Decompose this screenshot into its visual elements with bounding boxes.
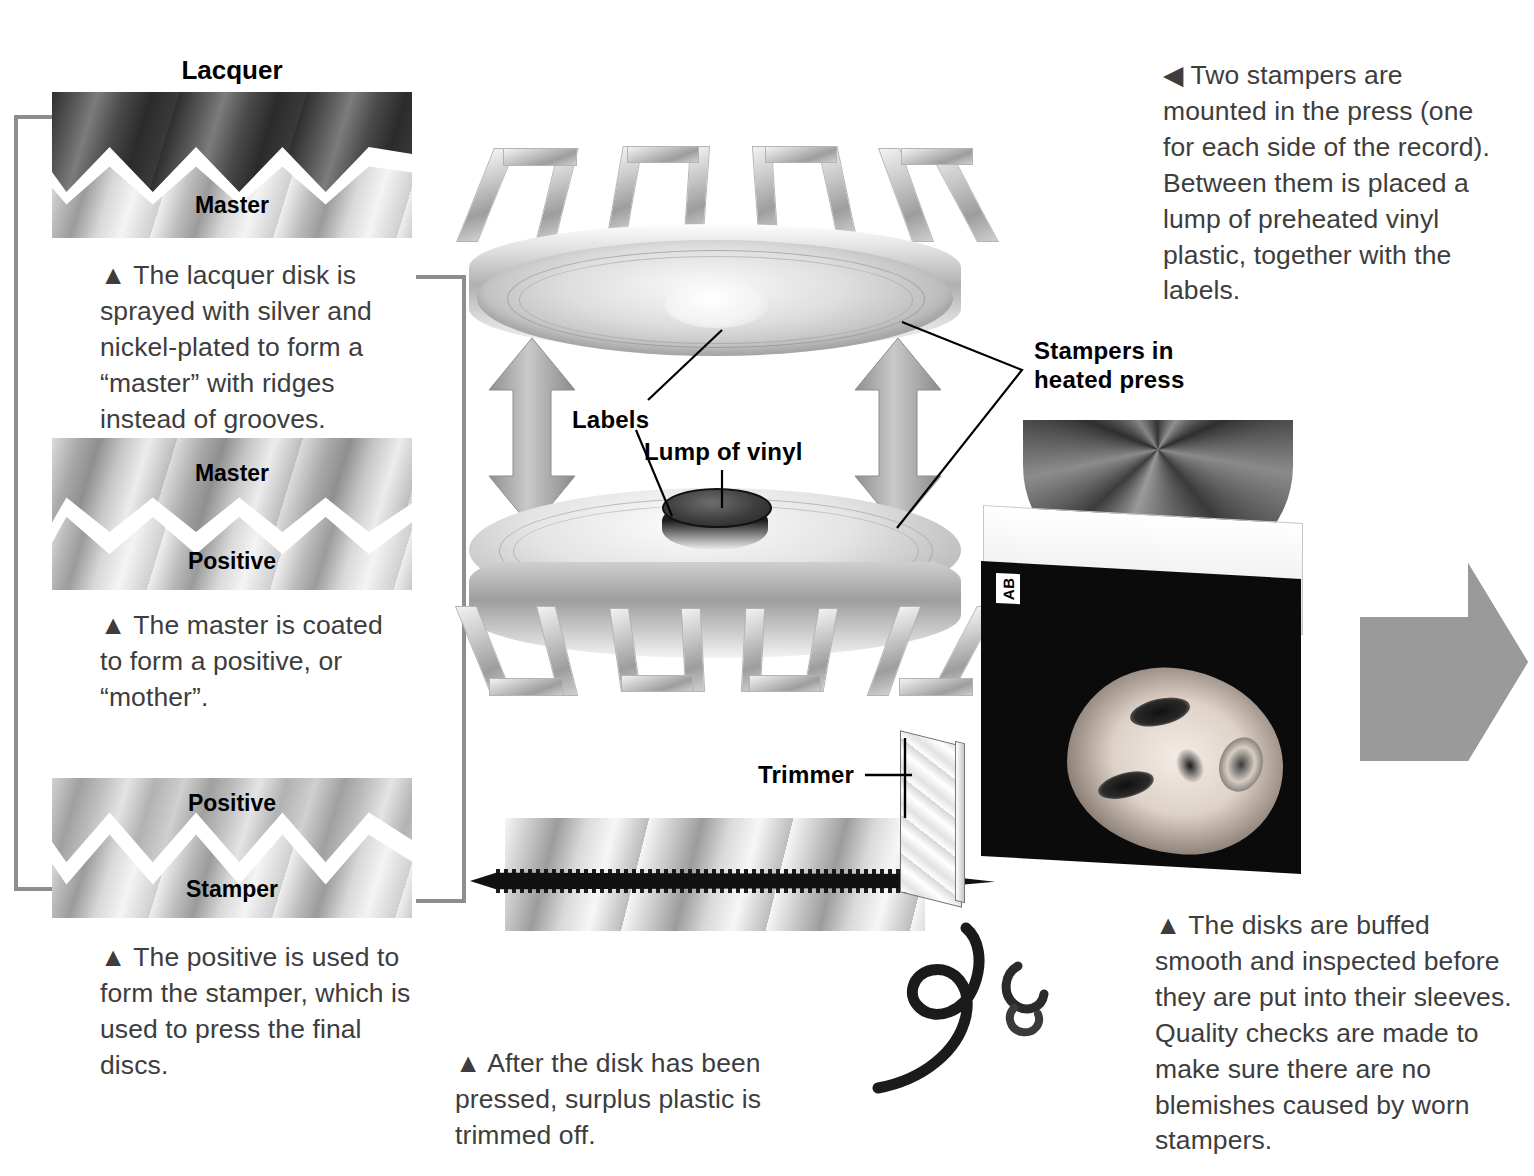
- swarf-curls: [862, 912, 1052, 1097]
- sleeve-badge: AB: [996, 573, 1020, 604]
- trim-caption: ▲ After the disk has been pressed, surpl…: [455, 1046, 785, 1154]
- panel-2-bottom-layer-label: Positive: [52, 548, 412, 575]
- finished-record-sleeve: AB: [975, 420, 1305, 870]
- panel-1-bottom-layer-label: Master: [52, 192, 412, 219]
- panel-2-top-layer-label: Master: [52, 460, 412, 487]
- panel-3-top-layer-label: Positive: [52, 790, 412, 817]
- finish-caption: ▲ The disks are buffed smooth and inspec…: [1155, 908, 1515, 1159]
- album-sleeve: AB: [981, 561, 1301, 874]
- trimmer-label: Trimmer: [758, 760, 854, 789]
- output-arrow-right: [1360, 555, 1530, 770]
- diagram-canvas: Lacquer Master ▲ The lacquer disk is spr…: [0, 0, 1534, 1176]
- panel-3-bottom-layer-label: Stamper: [52, 876, 412, 903]
